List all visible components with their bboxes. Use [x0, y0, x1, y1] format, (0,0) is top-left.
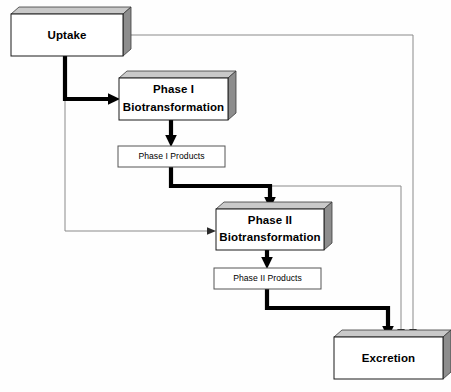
node-uptake-label: Uptake: [48, 29, 87, 41]
edge-phase2-to-phase2-products: [261, 250, 273, 269]
node-phase1-bevel-side: [228, 71, 236, 120]
edge-phase1-to-phase1-products-arrowhead: [165, 135, 177, 147]
edge-uptake-to-phase2-arrowhead: [207, 227, 216, 235]
node-phase1-label-line2: Biotransformation: [123, 101, 224, 113]
node-uptake[interactable]: Uptake: [11, 7, 131, 56]
edge-phase1-products-to-phase2-line: [171, 167, 270, 200]
node-excretion-bevel-side: [443, 330, 451, 379]
node-excretion-label: Excretion: [362, 352, 415, 364]
node-phase1-biotransformation[interactable]: Phase I Biotransformation: [119, 71, 236, 120]
node-phase1-products-label: Phase I Products: [138, 151, 204, 161]
edge-uptake-to-phase1: [65, 56, 120, 105]
node-uptake-bevel-side: [123, 7, 131, 56]
node-phase2-products-label: Phase II Products: [233, 273, 302, 283]
node-excretion[interactable]: Excretion: [334, 330, 451, 379]
node-phase2-biotransformation[interactable]: Phase II Biotransformation: [216, 202, 332, 250]
node-phase2-bevel-side: [324, 202, 332, 250]
node-uptake-bevel-top: [11, 7, 131, 14]
edge-uptake-to-phase1-arrowhead: [108, 93, 120, 105]
node-excretion-bevel-top: [334, 330, 451, 337]
metabolism-flow-diagram: Uptake Phase I Biotransformation Phase I…: [0, 0, 451, 392]
node-phase2-products[interactable]: Phase II Products: [214, 268, 321, 289]
node-phase1-products[interactable]: Phase I Products: [118, 146, 225, 167]
node-phase2-label-line2: Biotransformation: [219, 231, 320, 243]
node-phase1-label-line1: Phase I: [153, 83, 194, 95]
node-phase2-bevel-top: [216, 202, 332, 209]
diagram-canvas: Uptake Phase I Biotransformation Phase I…: [0, 0, 451, 392]
node-phase2-label-line1: Phase II: [248, 214, 292, 226]
edge-uptake-to-phase1-line: [65, 56, 110, 99]
edge-phase2-products-to-excretion-line: [267, 289, 388, 329]
edge-phase1-to-phase1-products: [165, 120, 177, 147]
node-phase1-bevel-top: [119, 71, 236, 78]
edge-phase2-to-phase2-products-arrowhead: [261, 257, 273, 269]
